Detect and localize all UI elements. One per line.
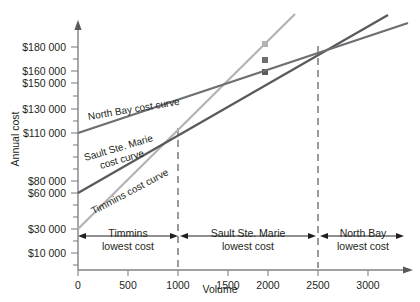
region-label-sault-ste-marie-line2: lowest cost [198,240,298,253]
x-axis-title: Volume [180,283,260,295]
region-label-timmins-line1: Timmins [88,227,168,240]
y-tick-label-10000: $10 000 [0,248,66,259]
y-tick-label-150000: $150 000 [0,78,66,89]
cost-volume-chart: $180 000 $160 000 $150 000 $130 000 $110… [0,0,420,302]
y-tick-label-60000: $60 000 [0,188,66,199]
y-tick-label-160000: $160 000 [0,66,66,77]
x-tick-label-500: 500 [108,280,148,291]
timmins-data-point [262,41,268,47]
x-tick-label-0: 0 [58,280,98,291]
north-bay-cost-curve [78,23,408,133]
region-label-sault-ste-marie-line1: Sault Ste. Marie [198,227,298,240]
region-label-sault-ste-marie: Sault Ste. Marie lowest cost [198,227,298,252]
y-axis-title: Annual cost [9,104,21,174]
y-tick-label-80000: $80 000 [0,176,66,187]
x-axis-ticks [78,270,368,276]
y-tick-label-180000: $180 000 [0,42,66,53]
y-axis-ticks [71,47,78,265]
x-tick-label-2500: 2500 [298,280,338,291]
region-label-timmins: Timmins lowest cost [88,227,168,252]
region-label-north-bay-line2: lowest cost [326,240,400,253]
region-label-north-bay-line1: North Bay [326,227,400,240]
x-tick-label-3000: 3000 [348,280,388,291]
region-label-north-bay: North Bay lowest cost [326,227,400,252]
north-bay-data-point [262,57,268,63]
y-tick-label-30000: $30 000 [0,224,66,235]
region-label-timmins-line2: lowest cost [88,240,168,253]
